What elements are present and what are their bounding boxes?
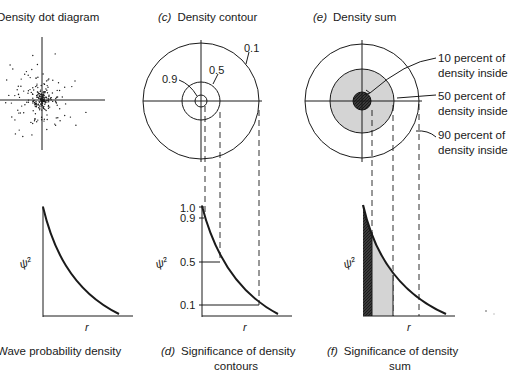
speck <box>493 313 495 315</box>
contour-label-0.1: 0.1 <box>244 42 259 54</box>
annotation-90-percent-l1: 90 percent of <box>438 129 506 141</box>
speck <box>485 310 487 312</box>
panel-a-title: Density dot diagram <box>0 11 99 23</box>
panel-c-contour <box>143 40 262 162</box>
tick-0.1: 0.1 <box>180 299 195 311</box>
contour-label-0.9: 0.9 <box>162 73 177 85</box>
panel-b-caption: Wave probability density <box>0 345 121 357</box>
panel-f-caption-line1: (f)Significance of density <box>327 345 459 357</box>
tick-0.9: 0.9 <box>180 212 195 224</box>
annotation-50-percent-l1: 50 percent of <box>438 90 506 102</box>
panel-e-title: (e)Density sum <box>313 11 396 23</box>
panel-d-caption-line1: (d)Significance of density <box>161 345 296 357</box>
panel-c-title: (c)Density contour <box>158 11 257 23</box>
panel-d-plot <box>199 205 292 317</box>
panel-f-ylabel: ψ² <box>342 254 359 270</box>
annotation-10-percent-l1: 10 percent of <box>438 52 506 64</box>
contour-label-0.5: 0.5 <box>209 64 224 76</box>
panel-e-density-sum <box>305 40 436 162</box>
panel-f-plot <box>363 200 455 316</box>
panel-d-caption-line2: contours <box>214 360 258 372</box>
panel-b-plot <box>43 206 133 317</box>
annotation-10-percent-l2: density inside <box>438 67 508 79</box>
panel-f-xlabel: r <box>407 321 412 333</box>
tick-0.5: 0.5 <box>180 256 195 268</box>
panel-a-dot-diagram <box>0 37 105 150</box>
panel-d-xlabel: r <box>243 321 248 333</box>
panel-f-caption-line2: sum <box>389 360 411 372</box>
panel-b-ylabel: ψ² <box>18 254 35 270</box>
annotation-90-percent-l2: density inside <box>438 144 508 156</box>
panel-b-xlabel: r <box>85 321 90 333</box>
panel-d-ylabel: ψ² <box>154 254 171 270</box>
figure: Density dot diagram (c)Density contour 0… <box>0 0 522 379</box>
annotation-50-percent-l2: density inside <box>438 105 508 117</box>
